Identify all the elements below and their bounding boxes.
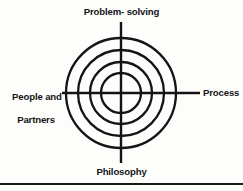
- label-philosophy: Philosophy: [0, 166, 243, 177]
- label-people-and-partners-line2: Partners: [17, 114, 55, 125]
- footer-divider: [0, 183, 243, 185]
- label-problem-solving: Problem- solving: [0, 6, 243, 17]
- figure-page: Problem- solving People and Partners Pro…: [0, 0, 243, 191]
- label-people-and-partners-line1: People and: [12, 91, 62, 102]
- axes-group: [62, 22, 200, 163]
- label-process: Process: [203, 87, 243, 98]
- label-people-and-partners: People and Partners: [2, 80, 60, 136]
